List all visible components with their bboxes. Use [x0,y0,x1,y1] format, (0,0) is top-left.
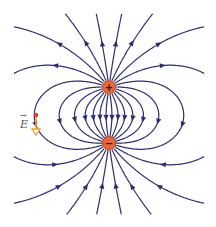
arrowhead-icon [160,63,166,69]
field-point [34,113,38,117]
field-line [114,148,205,203]
field-line [65,14,106,81]
arrowhead-icon [97,114,103,120]
field-lines [14,14,204,215]
arrowhead-icon [140,116,147,123]
dipole-field-diagram: +− [0,0,216,227]
electric-field-vector [32,113,40,135]
arrowhead-icon [82,39,90,47]
charge-sign: + [105,82,113,93]
negative-charge: − [103,137,116,150]
arrowhead-icon [52,63,58,69]
arrowhead-icon [155,182,163,189]
field-line [14,27,105,82]
arrowhead-icon [179,121,186,128]
field-line [97,150,108,214]
charge-sign: − [105,138,113,149]
field-line-arrows [32,39,185,191]
field-line [115,147,204,165]
arrowhead-icon [109,115,114,121]
field-line [14,148,105,203]
field-line [14,147,103,165]
field-line [67,149,106,214]
positive-charge: + [103,81,116,94]
e-vector-label: → E [20,118,28,131]
arrowhead-icon [160,162,166,168]
field-line [14,65,103,83]
arrowhead-icon [128,182,136,190]
vector-arrow-accent: → [20,111,27,120]
arrowhead-icon [83,182,91,190]
field-line [112,149,151,214]
field-line [96,14,108,80]
field-line [110,14,122,80]
field-line [115,65,204,83]
arrowhead-icon [155,118,162,125]
arrowhead-icon [129,39,137,47]
arrowhead-icon [155,40,163,47]
arrowhead-icon [72,116,79,123]
arrowhead-icon [115,114,121,120]
field-line [114,27,205,82]
arrowhead-icon [57,118,64,125]
arrowhead-icon [55,182,63,189]
arrowhead-icon [55,40,63,47]
field-line [110,150,121,214]
arrowhead-icon [52,162,58,168]
arrowhead-icon [103,115,108,121]
field-line [112,14,153,81]
